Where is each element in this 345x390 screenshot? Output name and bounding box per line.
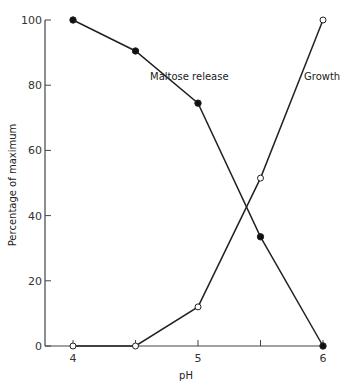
series-label-growth: Growth: [304, 71, 340, 82]
filled-circle-marker: [257, 234, 263, 240]
x-tick-label: 5: [195, 352, 202, 365]
y-tick-label: 80: [28, 79, 42, 92]
y-tick-label: 0: [35, 340, 42, 353]
line-chart: 020406080100456 Maltose release Growth p…: [0, 0, 345, 390]
series-lines: [73, 20, 323, 346]
series-line-maltose: [73, 20, 323, 346]
x-tick-label: 6: [320, 352, 327, 365]
y-tick-label: 60: [28, 144, 42, 157]
x-tick-label: 4: [70, 352, 77, 365]
open-circle-marker: [70, 343, 76, 349]
y-axis-title: Percentage of maximum: [7, 124, 18, 247]
y-tick-label: 40: [28, 210, 42, 223]
open-circle-marker: [320, 17, 326, 23]
x-axis-title: pH: [179, 370, 193, 381]
filled-circle-marker: [70, 17, 76, 23]
open-circle-marker: [258, 175, 264, 181]
series-line-growth: [73, 20, 323, 346]
open-circle-marker: [195, 304, 201, 310]
y-tick-label: 20: [28, 275, 42, 288]
filled-circle-marker: [195, 100, 201, 106]
y-tick-label: 100: [21, 14, 42, 27]
filled-circle-marker: [132, 48, 138, 54]
axes: 020406080100456: [21, 14, 327, 365]
series-label-maltose: Maltose release: [150, 71, 229, 82]
series-markers: [70, 17, 326, 349]
filled-circle-marker: [320, 343, 326, 349]
open-circle-marker: [133, 343, 139, 349]
